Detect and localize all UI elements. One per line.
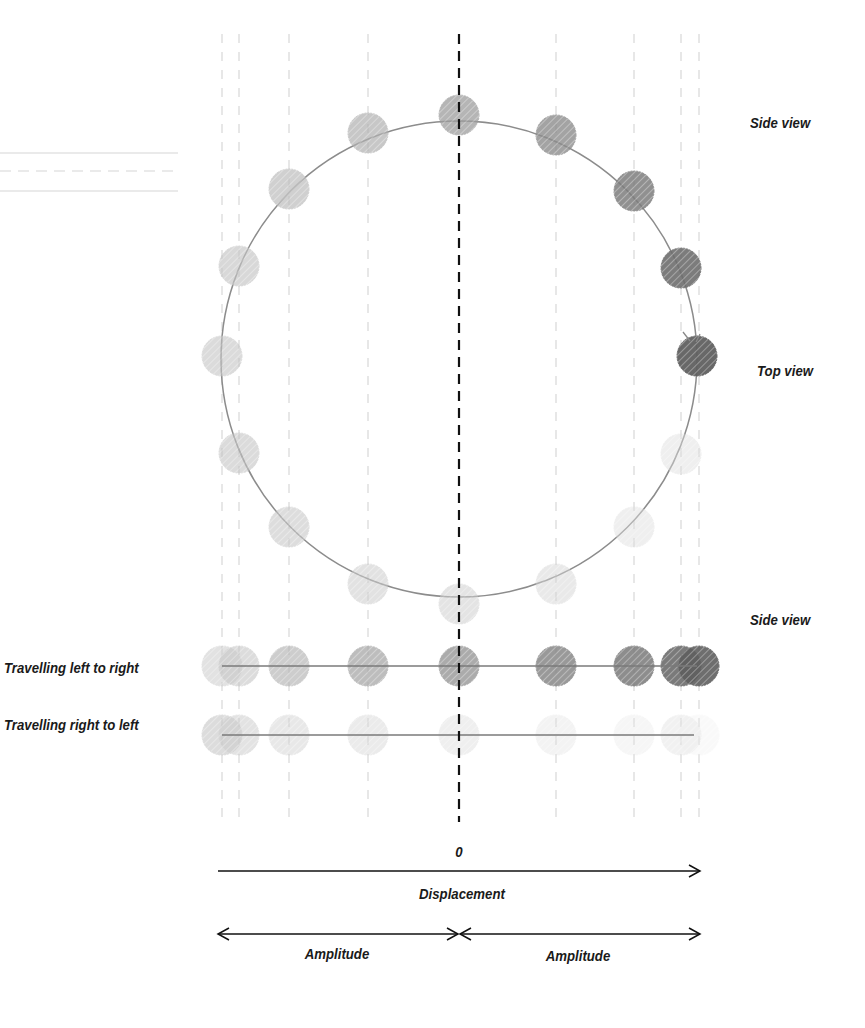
ball-hatch	[269, 169, 309, 209]
ball	[536, 564, 576, 604]
ball	[661, 248, 701, 288]
ball-hatch	[348, 564, 388, 604]
label-side-view-top: Side view	[750, 114, 810, 131]
ball	[348, 564, 388, 604]
ball-hatch	[614, 171, 654, 211]
ball	[202, 336, 242, 376]
ball	[219, 246, 259, 286]
ball	[536, 115, 576, 155]
label-travelling-right-to-left: Travelling right to left	[4, 716, 139, 733]
ball-hatch	[661, 434, 701, 474]
ball-hatch	[202, 336, 242, 376]
label-travelling-left-to-right: Travelling left to right	[4, 659, 139, 676]
ball-hatch	[219, 246, 259, 286]
ball	[269, 169, 309, 209]
vertical-guide-lines	[222, 34, 699, 822]
ball	[677, 336, 717, 376]
ball	[614, 507, 654, 547]
ball-hatch	[219, 433, 259, 473]
ball	[614, 171, 654, 211]
ball	[348, 113, 388, 153]
label-top-view: Top view	[757, 362, 813, 379]
ball	[219, 433, 259, 473]
ball-hatch	[536, 115, 576, 155]
row-right-to-left	[202, 715, 719, 755]
label-zero: 0	[455, 843, 462, 860]
ball-hatch	[677, 336, 717, 376]
label-side-view-bottom: Side view	[750, 611, 810, 628]
ball-hatch	[536, 564, 576, 604]
ball-hatch	[661, 248, 701, 288]
ball-hatch	[269, 507, 309, 547]
ball	[661, 434, 701, 474]
label-amplitude-right: Amplitude	[546, 947, 611, 964]
label-amplitude-left: Amplitude	[305, 945, 370, 962]
row-left-to-right	[202, 646, 719, 686]
ball-hatch	[348, 113, 388, 153]
label-displacement: Displacement	[419, 885, 505, 902]
diagram-canvas	[0, 0, 865, 1028]
axes	[218, 871, 700, 934]
ball	[269, 507, 309, 547]
faded-reference-lines	[0, 153, 178, 191]
shm-diagram: Side view Top view Side view Travelling …	[0, 0, 865, 1028]
ball-hatch	[614, 507, 654, 547]
